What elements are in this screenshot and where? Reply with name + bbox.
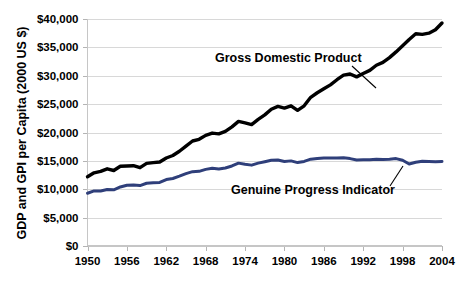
y-tick-label-40000: $40,000 xyxy=(37,13,79,25)
y-axis-tick-labels: $0$5,000$10,000$15,000$20,000$25,000$30,… xyxy=(37,13,79,252)
y-tick-label-5000: $5,000 xyxy=(43,212,78,224)
x-tick-label-2004: 2004 xyxy=(429,255,455,267)
x-tick-label-1980: 1980 xyxy=(272,255,298,267)
gdp-gpi-line-chart: $0$5,000$10,000$15,000$20,000$25,000$30,… xyxy=(0,0,463,290)
x-tick-label-1968: 1968 xyxy=(193,255,219,267)
y-tick-label-25000: $25,000 xyxy=(37,98,79,110)
x-tick-label-1974: 1974 xyxy=(232,255,258,267)
chart-container: $0$5,000$10,000$15,000$20,000$25,000$30,… xyxy=(0,0,463,290)
y-tick-label-35000: $35,000 xyxy=(37,41,79,53)
y-tick-label-20000: $20,000 xyxy=(37,127,79,139)
x-tick-label-1992: 1992 xyxy=(350,255,376,267)
y-tick-label-0: $0 xyxy=(66,240,79,252)
x-tick-label-1950: 1950 xyxy=(75,255,101,267)
x-tick-label-1956: 1956 xyxy=(114,255,140,267)
y-tick-label-10000: $10,000 xyxy=(37,183,79,195)
y-tick-label-30000: $30,000 xyxy=(37,70,79,82)
x-tick-label-1962: 1962 xyxy=(153,255,179,267)
gpi-annotation: Genuine Progress Indicator xyxy=(231,183,395,197)
x-tick-label-1986: 1986 xyxy=(311,255,337,267)
x-tick-label-1998: 1998 xyxy=(390,255,416,267)
gdp-annotation: Gross Domestic Product xyxy=(215,51,362,65)
y-axis-title: GDP and GPI per Capita (2000 US $) xyxy=(15,26,29,239)
y-tick-label-15000: $15,000 xyxy=(37,155,79,167)
